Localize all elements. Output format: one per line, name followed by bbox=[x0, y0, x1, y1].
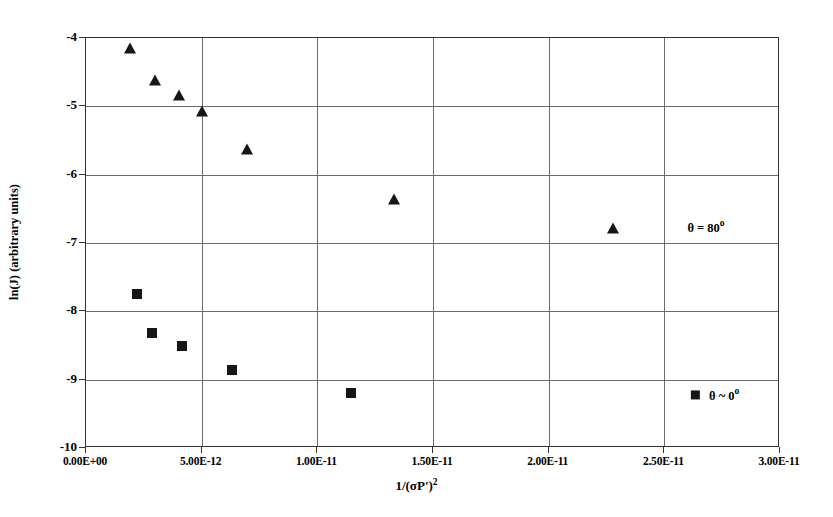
x-tick-mark bbox=[85, 447, 86, 453]
legend-annotation-degree: o bbox=[720, 219, 725, 229]
x-tick-mark bbox=[201, 447, 202, 453]
gridline-horizontal bbox=[86, 175, 778, 176]
gridline-horizontal bbox=[86, 243, 778, 244]
data-point-triangle bbox=[173, 89, 185, 100]
x-tick-label: 3.00E-11 bbox=[759, 455, 800, 467]
y-tick-label: -4 bbox=[37, 29, 77, 45]
x-tick-mark bbox=[316, 447, 317, 453]
y-tick-label: -8 bbox=[37, 302, 77, 318]
x-tick-label: 2.00E-11 bbox=[527, 455, 568, 467]
y-tick-label: -9 bbox=[37, 371, 77, 387]
y-tick-label: -6 bbox=[37, 166, 77, 182]
x-tick-label: 1.50E-11 bbox=[412, 455, 453, 467]
legend-annotation-label: θ = 80o bbox=[687, 219, 724, 236]
x-axis-title-exponent: 2 bbox=[433, 477, 438, 487]
legend-annotation-theta-0: θ ~ 0o bbox=[691, 386, 739, 403]
x-axis-title-text: 1/(σP') bbox=[395, 478, 432, 493]
data-point-triangle bbox=[241, 143, 253, 154]
gridline-horizontal bbox=[86, 380, 778, 381]
legend-square-marker-icon bbox=[691, 390, 700, 399]
x-tick-label: 0.00E+00 bbox=[63, 455, 107, 467]
data-point-triangle bbox=[124, 43, 136, 54]
data-point-square bbox=[177, 341, 187, 351]
x-tick-mark bbox=[663, 447, 664, 453]
gridline-vertical bbox=[433, 38, 434, 446]
gridline-vertical bbox=[317, 38, 318, 446]
x-tick-mark bbox=[432, 447, 433, 453]
x-tick-label: 1.00E-11 bbox=[296, 455, 337, 467]
legend-annotation-theta-80: θ = 80o bbox=[687, 219, 724, 236]
data-point-square bbox=[132, 289, 142, 299]
legend-annotation-label: θ ~ 0o bbox=[709, 386, 739, 403]
plot-area: θ = 80oθ ~ 0o bbox=[85, 37, 779, 447]
chart-figure: ln(J) (arbitrary units) -4-5-6-7-8-9-10 … bbox=[0, 0, 833, 517]
x-tick-label: 2.50E-11 bbox=[643, 455, 684, 467]
y-tick-label: -5 bbox=[37, 97, 77, 113]
gridline-vertical bbox=[549, 38, 550, 446]
data-point-triangle bbox=[388, 194, 400, 205]
gridline-horizontal bbox=[86, 311, 778, 312]
gridline-vertical bbox=[664, 38, 665, 446]
y-axis-title: ln(J) (arbitrary units) bbox=[7, 184, 22, 300]
data-point-triangle bbox=[196, 106, 208, 117]
data-point-square bbox=[227, 365, 237, 375]
gridline-horizontal bbox=[86, 106, 778, 107]
legend-annotation-degree: o bbox=[735, 386, 740, 396]
y-tick-label: -10 bbox=[37, 439, 77, 455]
x-tick-label: 5.00E-12 bbox=[180, 455, 222, 467]
y-tick-label: -7 bbox=[37, 234, 77, 250]
x-tick-mark bbox=[779, 447, 780, 453]
gridline-vertical bbox=[202, 38, 203, 446]
x-tick-mark bbox=[548, 447, 549, 453]
data-point-square bbox=[147, 328, 157, 338]
x-axis-title: 1/(σP')2 bbox=[0, 477, 833, 494]
data-point-triangle bbox=[607, 222, 619, 233]
data-point-triangle bbox=[149, 74, 161, 85]
data-point-square bbox=[346, 388, 356, 398]
